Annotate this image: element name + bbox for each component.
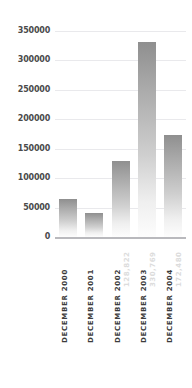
gridline (55, 119, 186, 120)
gridline (55, 60, 186, 61)
bar-value-label: 128,822 (122, 243, 133, 287)
y-axis-tick-label: 100000 (2, 174, 50, 182)
y-axis-tick-label: 250000 (2, 86, 50, 94)
bar (59, 199, 77, 237)
gridline (55, 90, 186, 91)
x-axis-category-label: DECEMBER 2000 (60, 243, 71, 343)
bar (112, 161, 130, 237)
x-axis-category-label: DECEMBER 2001 (86, 243, 97, 343)
bar (138, 42, 156, 237)
y-axis-tick-label: 200000 (2, 115, 50, 123)
y-axis-tick-label: 350000 (2, 27, 50, 35)
bar (85, 213, 103, 237)
bar-value-label: 172,480 (174, 243, 185, 287)
clipped-header-text: .......... (10, 0, 160, 3)
y-axis-tick-label: 150000 (2, 145, 50, 153)
y-axis-tick-label: 0 (2, 233, 50, 241)
bar-chart: .......... 05000010000015000020000025000… (0, 0, 192, 388)
plot-area (55, 31, 186, 237)
y-axis-tick-label: 50000 (2, 204, 50, 212)
y-axis-tick-labels: 0500001000001500002000002500003000003500… (0, 31, 50, 237)
gridline (55, 31, 186, 32)
bar-value-label: 330,769 (148, 243, 159, 287)
x-axis-line (55, 237, 186, 239)
bar (164, 135, 182, 237)
y-axis-tick-label: 300000 (2, 56, 50, 64)
